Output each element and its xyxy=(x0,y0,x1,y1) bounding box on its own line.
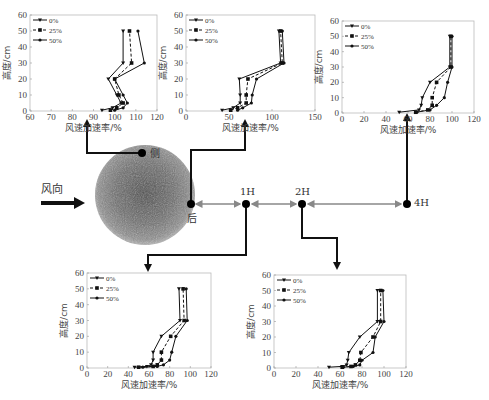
y-tick-label: 10 xyxy=(174,90,184,100)
legend-entry: 25% xyxy=(49,27,62,35)
legend-entry: 25% xyxy=(106,285,119,293)
shrub-image xyxy=(95,145,195,245)
x-tick-label: 80 xyxy=(68,112,78,122)
x-tick-label: 50 xyxy=(225,112,235,122)
y-tick-label: 60 xyxy=(262,270,272,280)
legend-entry: 0% xyxy=(293,277,303,285)
legend-entry: 50% xyxy=(361,43,374,51)
node-4h xyxy=(403,200,411,208)
chart-2H: 0204060801001200102030405060风速加速率/%高度/cm… xyxy=(245,270,413,390)
x-tick-label: 0 xyxy=(340,114,345,124)
x-axis-label: 风速加速率/% xyxy=(222,122,279,133)
y-tick-label: 40 xyxy=(262,301,272,311)
y-axis-label: 高度/cm xyxy=(157,46,168,81)
legend-entry: 0% xyxy=(49,17,59,25)
y-tick-label: 40 xyxy=(330,47,340,57)
node-2h xyxy=(298,200,306,208)
wind-direction-label: 风向 xyxy=(41,180,63,196)
y-tick-label: 40 xyxy=(174,42,184,52)
y-tick-label: 10 xyxy=(330,93,340,103)
node-side xyxy=(138,149,146,157)
x-tick-label: 0 xyxy=(184,112,189,122)
node-label-1h: 1H xyxy=(240,186,255,197)
y-tick-label: 0 xyxy=(267,363,272,373)
y-tick-label: 30 xyxy=(330,62,340,72)
legend-entry: 50% xyxy=(49,37,62,45)
node-label-2h: 2H xyxy=(295,186,310,197)
y-tick-label: 20 xyxy=(75,331,85,341)
x-tick-label: 110 xyxy=(129,112,143,122)
node-label-behind: 后 xyxy=(187,210,197,225)
legend-entry: 25% xyxy=(205,27,218,35)
legend-entry: 50% xyxy=(205,37,218,45)
y-tick-label: 10 xyxy=(75,347,85,357)
x-tick-label: 100 xyxy=(377,369,391,379)
chart-side: 607080901001101200102030405060风速加速率/%高度/… xyxy=(1,10,164,133)
x-tick-label: 0 xyxy=(85,369,90,379)
y-tick-label: 60 xyxy=(75,268,85,278)
y-tick-label: 30 xyxy=(18,58,28,68)
y-tick-label: 60 xyxy=(18,10,28,20)
x-axis-label: 风速加速率/% xyxy=(65,122,122,133)
y-tick-label: 20 xyxy=(18,74,28,84)
x-tick-label: 40 xyxy=(124,369,134,379)
x-tick-label: 150 xyxy=(308,112,322,122)
chart-behind: 0501001500102030405060风速加速率/%高度/cm0%25%5… xyxy=(157,10,322,133)
legend-entry: 25% xyxy=(361,33,374,41)
x-tick-label: 20 xyxy=(103,369,113,379)
node-behind xyxy=(187,200,195,208)
y-tick-label: 0 xyxy=(335,108,340,118)
y-tick-label: 60 xyxy=(174,10,184,20)
y-axis-label: 高度/cm xyxy=(58,303,69,338)
y-tick-label: 0 xyxy=(23,106,28,116)
y-tick-label: 10 xyxy=(262,348,272,358)
x-axis-label: 风速加速率/% xyxy=(380,124,437,135)
legend-entry: 0% xyxy=(106,275,116,283)
y-tick-label: 50 xyxy=(262,286,272,296)
y-tick-label: 0 xyxy=(80,363,85,373)
wind-direction-arrow xyxy=(41,197,85,209)
chart-4H: 0204060801001200102030405060风速加速率/%高度/cm… xyxy=(313,16,481,135)
y-tick-label: 50 xyxy=(330,31,340,41)
x-tick-label: 100 xyxy=(265,112,279,122)
y-tick-label: 60 xyxy=(330,16,340,26)
legend-entry: 25% xyxy=(293,287,306,295)
y-tick-label: 0 xyxy=(179,106,184,116)
x-tick-label: 120 xyxy=(467,114,481,124)
x-tick-label: 80 xyxy=(165,369,175,379)
x-tick-label: 120 xyxy=(399,369,413,379)
x-tick-label: 100 xyxy=(445,114,459,124)
x-axis-label: 风速加速率/% xyxy=(312,379,369,390)
y-tick-label: 40 xyxy=(75,300,85,310)
x-tick-label: 40 xyxy=(314,369,324,379)
legend-entry: 0% xyxy=(205,17,215,25)
y-tick-label: 20 xyxy=(330,77,340,87)
y-tick-label: 10 xyxy=(18,90,28,100)
x-tick-label: 60 xyxy=(145,369,155,379)
x-tick-label: 120 xyxy=(204,369,218,379)
node-1h xyxy=(242,200,250,208)
y-tick-label: 50 xyxy=(75,284,85,294)
y-tick-label: 20 xyxy=(262,332,272,342)
arrow-down-icon xyxy=(144,264,152,272)
y-tick-label: 20 xyxy=(174,74,184,84)
legend-entry: 50% xyxy=(106,295,119,303)
node-label-side: 侧 xyxy=(150,145,160,160)
node-label-4h: 4H xyxy=(414,197,429,208)
y-axis-label: 高度/cm xyxy=(313,50,324,85)
x-tick-label: 0 xyxy=(272,369,277,379)
x-tick-label: 40 xyxy=(382,114,392,124)
x-tick-label: 20 xyxy=(292,369,302,379)
x-tick-label: 120 xyxy=(150,112,164,122)
y-tick-label: 40 xyxy=(18,42,28,52)
y-tick-label: 30 xyxy=(262,317,272,327)
chart-1H: 0204060801001200102030405060风速加速率/%高度/cm… xyxy=(58,268,218,390)
x-tick-label: 90 xyxy=(89,112,99,122)
y-tick-label: 50 xyxy=(18,26,28,36)
x-tick-label: 70 xyxy=(47,112,57,122)
y-tick-label: 30 xyxy=(75,316,85,326)
x-tick-label: 60 xyxy=(404,114,414,124)
x-axis-label: 风速加速率/% xyxy=(121,379,178,390)
legend-entry: 0% xyxy=(361,23,371,31)
y-tick-label: 30 xyxy=(174,58,184,68)
